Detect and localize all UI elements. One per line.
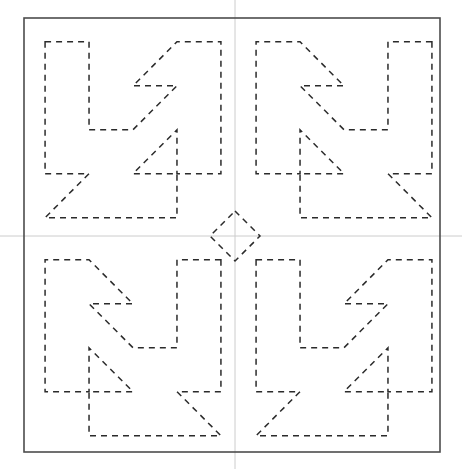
- canvas-background: [0, 0, 462, 469]
- geometric-figure-canvas: [0, 0, 462, 469]
